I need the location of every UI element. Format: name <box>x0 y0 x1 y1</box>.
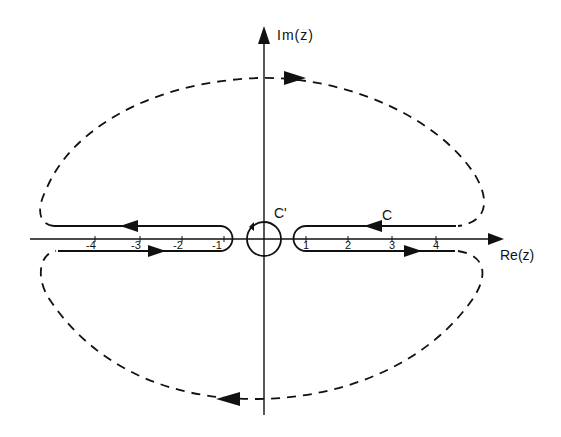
tick-label-4: 4 <box>433 239 439 251</box>
right-lower-arrow-icon <box>404 245 422 257</box>
tick-label-neg2: -2 <box>173 239 183 251</box>
outer-contour-label: C <box>382 207 392 223</box>
tick-label-neg4: -4 <box>86 239 96 251</box>
left-upper-arrow-icon <box>120 220 138 232</box>
tick-label-1: 1 <box>303 239 309 251</box>
tick-labels: -4 -3 -2 -1 1 2 3 4 <box>86 239 439 251</box>
right-upper-arrow-icon <box>364 220 382 232</box>
inner-contour-label: C' <box>274 205 287 221</box>
imaginary-axis <box>258 26 270 415</box>
imaginary-axis-arrow-icon <box>258 26 270 44</box>
top-arrow-icon <box>284 71 306 85</box>
x-axis-label: Re(z) <box>500 247 534 263</box>
tick-label-neg1: -1 <box>212 239 222 251</box>
tick-label-3: 3 <box>389 239 395 251</box>
contour-diagram: Im(z) Re(z) C' C -4 -3 <box>0 0 561 437</box>
real-axis-arrow-icon <box>488 233 504 245</box>
tick-label-2: 2 <box>345 239 351 251</box>
bottom-arrow-icon <box>216 392 240 406</box>
tick-label-neg3: -3 <box>131 239 141 251</box>
left-lower-arrow-icon <box>148 245 166 257</box>
y-axis-label: Im(z) <box>277 27 314 43</box>
